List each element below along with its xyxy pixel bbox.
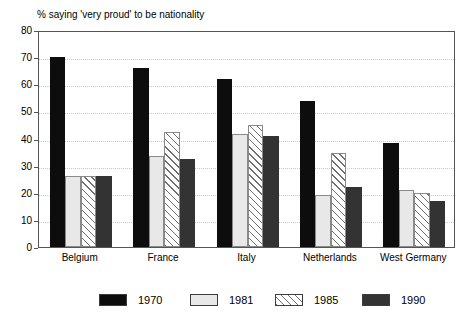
bar [96,176,112,247]
bar-group [300,32,362,247]
y-axis-tick [34,112,38,113]
chart-title: % saying 'very proud' to be nationality [37,9,204,21]
bar [414,193,430,247]
y-axis-tick [34,194,38,195]
y-axis-tick [34,85,38,86]
y-axis-label: 10 [6,216,32,226]
x-axis-category-label: France [121,252,204,263]
legend-item[interactable]: 1981 [190,292,253,308]
bar-group [383,32,445,247]
y-axis-tick [34,221,38,222]
x-axis-category-label: West Germany [372,252,455,263]
y-axis-label: 30 [6,162,32,172]
bar-group [133,32,195,247]
bar [331,153,347,247]
plot-area [38,31,455,248]
bar [300,101,316,247]
y-axis-tick [34,248,38,249]
bar [217,79,233,247]
bar [50,57,66,247]
y-axis-label: 0 [6,243,32,253]
bar [346,187,362,247]
legend-swatch-icon [190,294,218,306]
bar [315,195,331,247]
legend-swatch-icon [275,294,303,306]
y-axis-label: 50 [6,107,32,117]
legend-swatch-icon [362,294,390,306]
x-axis-category-label: Belgium [38,252,121,263]
y-axis-tick [34,140,38,141]
legend-item[interactable]: 1990 [362,292,425,308]
y-axis-label: 40 [6,135,32,145]
bar-chart: % saying 'very proud' to be nationality … [0,0,475,323]
x-axis-category-label: Italy [205,252,288,263]
bar [164,132,180,247]
bar [399,190,415,247]
bar [81,176,97,247]
bar [65,176,81,247]
legend-label: 1981 [229,294,253,306]
plot-inner [39,32,454,247]
legend-item[interactable]: 1985 [275,292,338,308]
bar [263,136,279,247]
chart-legend: 1970198119851990 [0,292,475,314]
y-axis-label: 60 [6,80,32,90]
y-axis-tick [34,167,38,168]
bar-group [217,32,279,247]
bar-group [50,32,112,247]
y-axis-label: 70 [6,53,32,63]
y-axis-label: 20 [6,189,32,199]
bar [149,156,165,247]
bar [248,125,264,247]
y-axis-tick [34,58,38,59]
bar [133,68,149,247]
legend-item[interactable]: 1970 [99,292,162,308]
legend-swatch-icon [99,294,127,306]
y-axis-label: 80 [6,26,32,36]
bar [232,134,248,247]
x-axis-category-label: Netherlands [288,252,371,263]
bar [430,201,446,247]
y-axis-tick [34,31,38,32]
legend-label: 1985 [314,294,338,306]
bar [383,143,399,247]
legend-label: 1970 [138,294,162,306]
bar [180,159,196,247]
legend-label: 1990 [401,294,425,306]
